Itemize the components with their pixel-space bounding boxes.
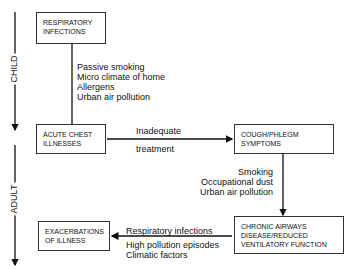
child-factors: Passive smoking Micro climate of home Al… [77,62,165,102]
label-treatment: treatment [136,144,174,154]
box-exacerbations: EXACERBATIONS OF ILLNESS [38,221,110,251]
diagram: CHILD ADULT RESPIRATORY INFECTIONS ACUTE… [0,0,345,269]
box-acute-chest-illnesses: ACUTE CHEST ILLNESSES [36,124,106,154]
label-inadequate: Inadequate [136,126,181,136]
label-respiratory-infections: Respiratory infections [126,226,213,236]
phase-child: CHILD [9,53,19,84]
box-respiratory-infections: RESPIRATORY INFECTIONS [36,12,106,44]
box-chronic-airways: CHRONIC AIRWAYS DISEASE/REDUCED VENTILAT… [234,216,344,254]
phase-adult: ADULT [9,183,19,216]
box-cough-phlegm: COUGH/PHLEGM SYMPTOMS [234,124,334,154]
adult-factors: Smoking Occupational dust Urban air poll… [200,167,273,197]
exac-factors: High pollution episodes Climatic factors [126,240,219,260]
